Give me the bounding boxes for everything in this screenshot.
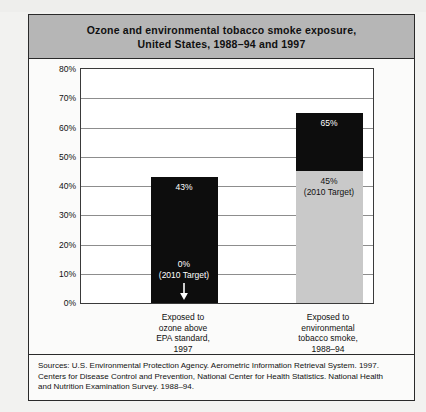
- x-axis-label-line-1: Exposed to: [268, 312, 388, 323]
- x-axis-label-line-4: 1988–94: [268, 344, 388, 355]
- sources-line-3: and Nutrition Examination Survey. 1988–9…: [38, 382, 405, 393]
- y-axis-tick-label: 40%: [59, 181, 76, 191]
- bar-target-label-line-1: 0%: [137, 259, 232, 270]
- plot-area: 80%70%60%50%40%30%20%10%0% 43%0%(2010 Ta…: [80, 68, 374, 304]
- y-axis-tick-label: 70%: [59, 93, 76, 103]
- x-axis-category-label: Exposed toenvironmentaltobacco smoke,198…: [268, 312, 388, 354]
- x-axis-label-line-1: Exposed to: [123, 312, 243, 323]
- figure-title-line-2: United States, 1988–94 and 1997: [138, 37, 306, 51]
- bar-total-label: 65%: [296, 118, 363, 129]
- bar-target-annotation: 0%(2010 Target): [137, 259, 232, 281]
- figure-title-banner: Ozone and environmental tobacco smoke ex…: [29, 15, 414, 59]
- x-axis-label-line-3: EPA standard,: [123, 333, 243, 344]
- y-axis-tick-label: 20%: [59, 240, 76, 250]
- bar-target-label-line-2: (2010 Target): [282, 187, 377, 198]
- x-axis-category-label: Exposed toozone aboveEPA standard,1997: [123, 312, 243, 354]
- y-axis-tick-label: 80%: [59, 64, 76, 74]
- gridline: [81, 98, 373, 99]
- y-axis-tick-label: 30%: [59, 210, 76, 220]
- sources-line-2: Centers for Disease Control and Preventi…: [38, 372, 405, 383]
- figure-title-line-1: Ozone and environmental tobacco smoke ex…: [87, 23, 357, 37]
- figure-container: Ozone and environmental tobacco smoke ex…: [28, 14, 415, 401]
- bar-target-label-line-2: (2010 Target): [137, 270, 232, 281]
- target-arrow-down-icon: [180, 283, 189, 301]
- x-axis-label-line-2: environmental: [268, 323, 388, 334]
- bar[interactable]: 65%45%(2010 Target): [296, 113, 363, 303]
- bar[interactable]: 43%0%(2010 Target): [151, 177, 218, 303]
- y-axis-tick-label: 10%: [59, 269, 76, 279]
- sources-line-1: Sources: U.S. Environmental Protection A…: [38, 361, 405, 372]
- sources-note: Sources: U.S. Environmental Protection A…: [29, 354, 414, 400]
- page-margin: [0, 0, 426, 12]
- bar-target-annotation: 45%(2010 Target): [282, 176, 377, 198]
- bar-total-label: 43%: [151, 182, 218, 193]
- chart-area: 80%70%60%50%40%30%20%10%0% 43%0%(2010 Ta…: [29, 59, 414, 356]
- x-axis-label-line-2: ozone above: [123, 323, 243, 334]
- y-axis-tick-label: 50%: [59, 152, 76, 162]
- x-axis-label-line-4: 1997: [123, 344, 243, 355]
- y-axis-tick-label: 60%: [59, 123, 76, 133]
- bar-target-label-line-1: 45%: [282, 176, 377, 187]
- x-axis-label-line-3: tobacco smoke,: [268, 333, 388, 344]
- y-axis-tick-label: 0%: [64, 298, 76, 308]
